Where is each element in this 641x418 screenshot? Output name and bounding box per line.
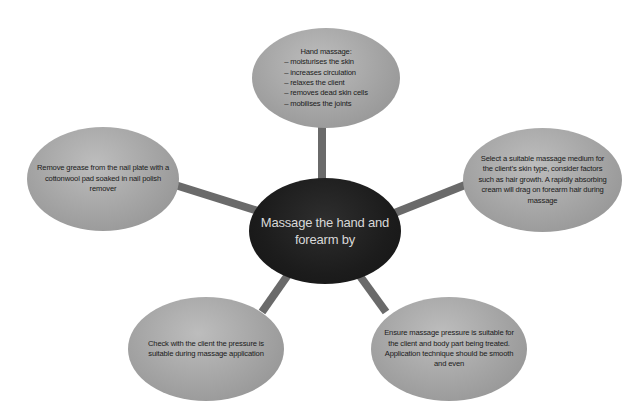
connector-left: [172, 184, 258, 211]
benefit-item: – relaxes the client: [284, 78, 368, 88]
text-line: Select a suitable massage medium for: [478, 154, 606, 164]
text-line: the client and body part being treated.: [384, 339, 514, 349]
text-line: the client’s skin type, consider factors: [478, 164, 606, 174]
text-line: remover: [37, 184, 169, 194]
central-node: Massage the hand and forearm by: [249, 178, 401, 284]
node-text: Remove grease from the nail plate with a…: [23, 163, 183, 194]
node-check-pressure: Check with the client the pressure is su…: [128, 297, 284, 401]
node-ensure-pressure: Ensure massage pressure is suitable for …: [371, 297, 527, 401]
node-text: Check with the client the pressure is su…: [134, 339, 278, 360]
text-line: Remove grease from the nail plate with a: [37, 163, 169, 173]
connector-bottom-left: [262, 272, 290, 312]
node-hand-massage-benefits: Hand massage: – moisturises the skin – i…: [252, 28, 400, 128]
connector-bottom-right: [357, 272, 386, 312]
text-line: such as hair growth. A rapidly absorbing: [478, 175, 606, 185]
central-label-line: forearm by: [261, 231, 389, 248]
node-text: Hand massage: – moisturises the skin – i…: [284, 47, 368, 109]
text-line: and even: [384, 359, 514, 369]
text-line: Application technique should be smooth: [384, 349, 514, 359]
connector-right: [392, 183, 470, 214]
text-line: suitable during massage application: [148, 349, 264, 359]
central-node-text: Massage the hand and forearm by: [251, 214, 399, 248]
text-line: Ensure massage pressure is suitable for: [384, 328, 514, 338]
text-line: massage: [478, 196, 606, 206]
text-line: Check with the client the pressure is: [148, 339, 264, 349]
text-line: cream will drag on forearm hair during: [478, 185, 606, 195]
benefit-item: – increases circulation: [284, 68, 368, 78]
text-line: cottonwool pad soaked in nail polish: [37, 174, 169, 184]
node-title: Hand massage:: [284, 47, 368, 57]
benefit-item: – removes dead skin cells: [284, 88, 368, 98]
node-remove-grease: Remove grease from the nail plate with a…: [27, 127, 179, 231]
central-label-line: Massage the hand and: [261, 214, 389, 231]
benefit-item: – mobilises the joints: [284, 99, 368, 109]
benefit-item: – moisturises the skin: [284, 57, 368, 67]
node-text: Select a suitable massage medium for the…: [464, 154, 620, 206]
node-text: Ensure massage pressure is suitable for …: [370, 328, 528, 370]
node-select-massage-medium: Select a suitable massage medium for the…: [463, 128, 622, 232]
